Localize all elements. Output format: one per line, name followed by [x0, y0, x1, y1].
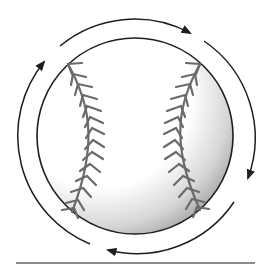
- ball-body: [37, 38, 233, 234]
- baseball: [37, 38, 233, 234]
- baseball-spin-diagram: [0, 0, 266, 268]
